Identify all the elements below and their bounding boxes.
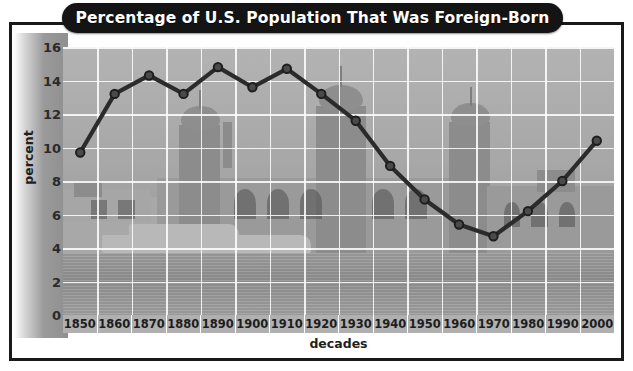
y-axis-tick-label: 16 [13, 40, 61, 55]
page-title: Percentage of U.S. Population That Was F… [76, 9, 550, 27]
x-axis-ticks: 1850186018701880189019001910192019301940… [63, 315, 614, 333]
data-point-marker [420, 195, 428, 203]
y-axis-tick-label: 6 [13, 207, 61, 222]
x-axis-tick-label: 1880 [167, 315, 202, 333]
x-axis-tick-label: 1930 [339, 315, 374, 333]
x-axis-tick-label: 1910 [270, 315, 305, 333]
data-point-marker [317, 90, 325, 98]
data-point-marker [455, 220, 463, 228]
data-point-marker [76, 148, 84, 156]
series-polyline [80, 67, 597, 236]
data-point-marker [558, 177, 566, 185]
data-point-marker [248, 83, 256, 91]
data-point-marker [489, 232, 497, 240]
x-axis-tick-label: 1890 [201, 315, 236, 333]
data-point-marker [352, 117, 360, 125]
x-axis-tick-label: 1990 [546, 315, 581, 333]
data-point-marker [524, 207, 532, 215]
x-axis-tick-label: 1870 [132, 315, 167, 333]
y-axis-title: percent [21, 118, 36, 198]
data-point-marker [145, 71, 153, 79]
plot-area [63, 47, 614, 315]
y-axis-tick-label: 14 [13, 73, 61, 88]
data-point-marker [593, 137, 601, 145]
x-axis-tick-label: 1980 [512, 315, 547, 333]
x-axis-tick-label: 1850 [63, 315, 98, 333]
data-point-marker [386, 162, 394, 170]
data-point-marker [214, 63, 222, 71]
chart-figure: Percentage of U.S. Population That Was F… [0, 0, 633, 371]
x-axis-tick-label: 1960 [443, 315, 478, 333]
x-axis-tick-label: 1970 [477, 315, 512, 333]
data-series-line [63, 47, 614, 315]
data-point-marker [179, 90, 187, 98]
x-axis-tick-label: 1950 [408, 315, 443, 333]
x-axis-tick-label: 1900 [236, 315, 271, 333]
data-point-marker [283, 65, 291, 73]
y-axis-tick-label: 0 [13, 308, 61, 323]
x-axis-tick-label: 1920 [305, 315, 340, 333]
y-axis-tick-label: 2 [13, 274, 61, 289]
data-point-marker [110, 90, 118, 98]
y-axis-tick-label: 4 [13, 241, 61, 256]
x-axis-tick-label: 1940 [374, 315, 409, 333]
x-axis-title: decades [63, 336, 614, 351]
x-axis-tick-label: 2000 [581, 315, 615, 333]
chart-title-banner: Percentage of U.S. Population That Was F… [62, 3, 563, 33]
x-axis-tick-label: 1860 [98, 315, 133, 333]
